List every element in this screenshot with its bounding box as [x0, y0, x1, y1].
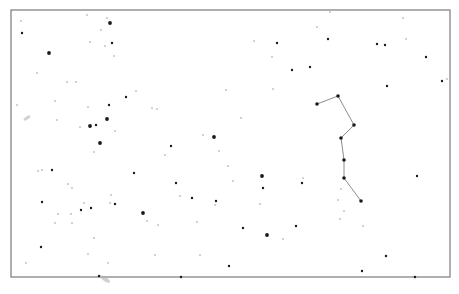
star — [227, 165, 229, 167]
star — [90, 207, 92, 209]
star — [70, 213, 72, 215]
star — [414, 276, 416, 278]
star — [40, 246, 42, 248]
star — [66, 81, 68, 83]
star — [151, 107, 153, 109]
star — [109, 202, 111, 204]
star — [225, 89, 227, 91]
star — [21, 32, 23, 34]
star — [88, 124, 92, 128]
star — [16, 104, 18, 106]
star — [260, 174, 264, 178]
star — [86, 14, 88, 16]
star — [405, 38, 407, 40]
constellation-star — [336, 94, 340, 98]
star — [56, 119, 58, 121]
star — [291, 69, 293, 71]
star — [79, 126, 81, 128]
star — [156, 108, 158, 110]
star — [98, 275, 100, 277]
constellation-star — [315, 102, 319, 106]
star — [114, 203, 116, 205]
star — [242, 227, 244, 229]
star — [75, 81, 77, 83]
star — [146, 220, 148, 222]
chart-frame — [11, 10, 450, 277]
star — [340, 188, 342, 190]
star — [385, 255, 387, 257]
star — [259, 203, 261, 205]
galaxy-icon — [99, 274, 111, 284]
star — [214, 204, 216, 206]
star — [295, 225, 297, 227]
star — [212, 135, 216, 139]
star — [25, 262, 27, 264]
star — [180, 276, 182, 278]
star — [41, 169, 43, 171]
star — [376, 43, 378, 45]
star — [57, 213, 59, 215]
star — [105, 117, 109, 121]
star — [343, 210, 345, 212]
star — [41, 201, 43, 203]
star — [446, 78, 448, 80]
star — [309, 66, 311, 68]
star — [316, 26, 318, 28]
star — [36, 72, 38, 74]
star — [276, 42, 278, 44]
star — [196, 221, 198, 223]
star — [141, 211, 145, 215]
star — [51, 169, 53, 171]
star — [272, 88, 274, 90]
constellation-star — [342, 158, 346, 162]
star — [71, 187, 73, 189]
star — [425, 56, 427, 58]
star — [164, 154, 166, 156]
star — [87, 106, 89, 108]
star — [135, 90, 137, 92]
star — [98, 141, 102, 145]
star — [93, 237, 95, 239]
star — [37, 170, 39, 172]
star — [339, 218, 341, 220]
star-layer — [16, 11, 448, 278]
galaxy-icon — [23, 114, 31, 121]
star — [361, 270, 363, 272]
star — [93, 151, 95, 153]
star — [154, 254, 156, 256]
star — [202, 134, 204, 136]
star — [175, 182, 177, 184]
star — [95, 124, 97, 126]
constellation-star — [352, 123, 356, 127]
star — [218, 150, 220, 152]
star — [240, 117, 242, 119]
star — [402, 17, 404, 19]
star — [384, 44, 386, 46]
star — [87, 253, 89, 255]
star — [232, 180, 234, 182]
star — [362, 225, 364, 227]
star — [253, 40, 255, 42]
star — [271, 56, 273, 58]
star — [215, 200, 217, 202]
star — [83, 202, 85, 204]
star — [71, 222, 73, 224]
star — [107, 262, 109, 264]
star — [228, 265, 230, 267]
star — [327, 38, 329, 40]
star — [386, 85, 388, 87]
star — [108, 21, 112, 25]
star — [416, 175, 418, 177]
star — [67, 183, 69, 185]
star — [100, 29, 102, 31]
galaxy-layer — [23, 114, 111, 284]
star — [80, 209, 82, 211]
star — [157, 224, 159, 226]
constellation-star — [342, 176, 346, 180]
constellation-star — [359, 199, 363, 203]
star — [113, 55, 115, 57]
star — [329, 11, 331, 13]
star — [282, 238, 284, 240]
constellation-line — [317, 96, 361, 201]
star — [179, 195, 181, 197]
